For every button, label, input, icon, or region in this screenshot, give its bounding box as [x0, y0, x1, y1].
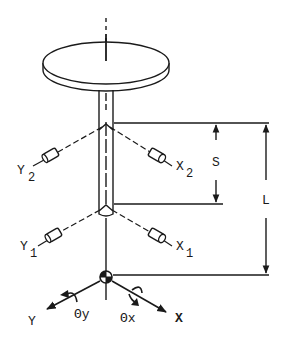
axis-x-arrow [112, 281, 166, 312]
label-axis-x: X [175, 311, 183, 326]
label-s: S [212, 155, 220, 170]
origin-marker [100, 271, 112, 283]
label-y1-sub: 1 [30, 247, 37, 261]
label-theta-y: Θy [74, 307, 90, 322]
label-x1-sub: 1 [186, 247, 193, 261]
upper-sensor-lines [33, 127, 172, 166]
sensor-y1 [44, 228, 62, 244]
label-y1: Y [20, 239, 28, 254]
label-l: L [262, 193, 270, 208]
label-axis-y: Y [28, 314, 36, 329]
label-x2-sub: 2 [186, 167, 193, 181]
label-theta-x: Θx [120, 311, 136, 326]
label-x1: X [176, 239, 184, 254]
sensor-y2 [41, 148, 59, 164]
shaft [99, 90, 113, 300]
label-y2-sub: 2 [28, 171, 35, 185]
sensor-x1 [148, 228, 167, 244]
disk [43, 38, 169, 91]
label-y2: Y [17, 163, 25, 178]
rotor-sensor-diagram: Y 2 X 2 Y 1 X 1 S L Y Θy Θx X [0, 0, 285, 343]
label-x2: X [176, 159, 184, 174]
sensor-x2 [148, 148, 167, 164]
